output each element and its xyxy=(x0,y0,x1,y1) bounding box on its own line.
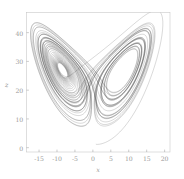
y-tick-label: 0 xyxy=(0,144,23,151)
plot-canvas xyxy=(0,0,184,179)
attractor-trajectory xyxy=(30,12,162,145)
x-tick-label: 0 xyxy=(91,155,95,162)
y-tick-label: 40 xyxy=(0,29,23,36)
x-tick-label: 10 xyxy=(125,155,132,162)
x-tick-label: -5 xyxy=(72,155,78,162)
lorenz-attractor-figure: -15-10-505101520 010203040 x z xyxy=(0,0,184,179)
x-tick-label: 5 xyxy=(109,155,113,162)
x-tick-label: -15 xyxy=(34,155,43,162)
y-tick-label: 30 xyxy=(0,58,23,65)
x-tick-label: -10 xyxy=(52,155,61,162)
y-axis-title: z xyxy=(5,81,8,89)
y-tick-label: 10 xyxy=(0,115,23,122)
y-tick-label: 20 xyxy=(0,87,23,94)
x-tick-label: 15 xyxy=(143,155,150,162)
x-tick-label: 20 xyxy=(161,155,168,162)
x-axis-title: x xyxy=(96,166,100,174)
